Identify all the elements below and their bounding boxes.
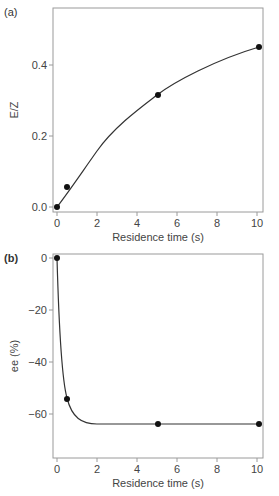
xtick-a-4: 8 xyxy=(214,217,220,229)
panel-a-label: (a) xyxy=(4,6,17,18)
xlabel-a: Residence time (s) xyxy=(112,231,204,243)
x-axis-a: 0 2 4 6 8 10 Residence time (s) xyxy=(54,212,263,243)
fit-curve-b xyxy=(57,258,259,424)
data-point xyxy=(256,44,262,50)
xtick-a-0: 0 xyxy=(54,217,60,229)
y-axis-a: 0.0 0.2 0.4 E/Z xyxy=(8,59,53,213)
figure: (a) 0.0 0.2 0.4 E/Z 0 2 4 6 8 10 Residen… xyxy=(0,0,279,496)
data-point xyxy=(256,421,262,427)
ylabel-a: E/Z xyxy=(8,101,20,118)
ytick-b-2: −40 xyxy=(28,356,47,368)
data-points-a xyxy=(54,44,262,210)
data-point xyxy=(64,396,70,402)
plot-a-frame xyxy=(53,8,263,212)
xtick-b-1: 2 xyxy=(94,463,100,475)
plot-b-frame xyxy=(53,254,263,458)
xtick-a-5: 10 xyxy=(251,217,263,229)
xtick-a-1: 2 xyxy=(94,217,100,229)
xtick-b-2: 4 xyxy=(134,463,140,475)
ytick-a-2: 0.4 xyxy=(32,59,47,71)
xtick-b-4: 8 xyxy=(214,463,220,475)
data-point xyxy=(155,92,161,98)
panel-b-label: (b) xyxy=(4,252,18,264)
ytick-a-0: 0.0 xyxy=(32,201,47,213)
xtick-b-3: 6 xyxy=(174,463,180,475)
panel-a: (a) 0.0 0.2 0.4 E/Z 0 2 4 6 8 10 Residen… xyxy=(4,6,263,243)
fit-curve-a xyxy=(57,47,259,207)
ytick-a-1: 0.2 xyxy=(32,130,47,142)
data-point xyxy=(155,421,161,427)
xtick-a-2: 4 xyxy=(134,217,140,229)
data-point xyxy=(54,255,60,261)
x-axis-b: 0 2 4 6 8 10 Residence time (s) xyxy=(54,458,263,489)
data-points-b xyxy=(54,255,262,427)
ytick-b-3: −60 xyxy=(28,408,47,420)
y-axis-b: 0 −20 −40 −60 ee (%) xyxy=(8,252,53,420)
panel-b: (b) 0 −20 −40 −60 ee (%) 0 2 4 6 8 10 xyxy=(4,252,263,489)
ylabel-b: ee (%) xyxy=(8,340,20,372)
xtick-b-0: 0 xyxy=(54,463,60,475)
xlabel-b: Residence time (s) xyxy=(112,477,204,489)
data-point xyxy=(64,184,70,190)
data-point xyxy=(54,204,60,210)
ytick-b-1: −20 xyxy=(28,304,47,316)
xtick-b-5: 10 xyxy=(251,463,263,475)
xtick-a-3: 6 xyxy=(174,217,180,229)
ytick-b-0: 0 xyxy=(41,252,47,264)
